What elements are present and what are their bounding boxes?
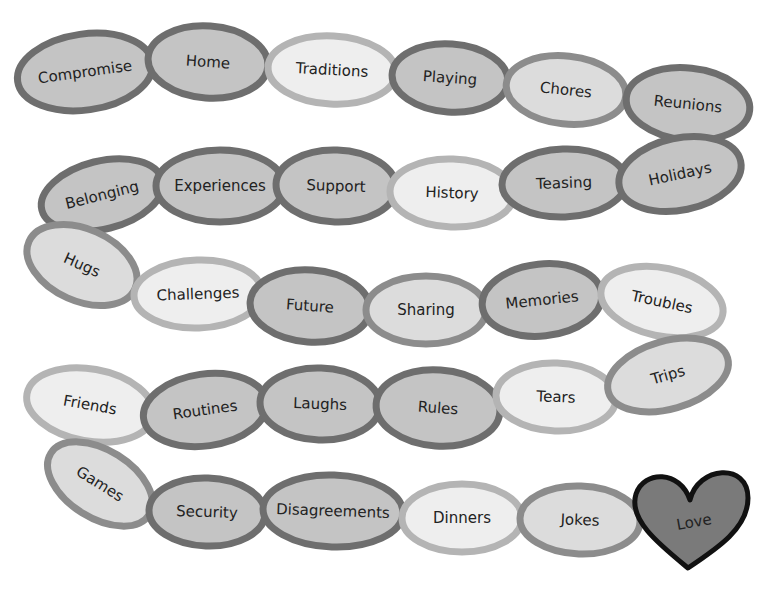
chain-link-chores: Chores: [503, 50, 629, 130]
chain-link-traditions: Traditions: [266, 33, 397, 108]
chain-link-routines: Routines: [139, 366, 272, 455]
chain-link-history: History: [389, 157, 515, 229]
link-label: Laughs: [293, 394, 348, 414]
chain-links: CompromiseHomeTraditionsPlayingChoresReu…: [12, 22, 753, 556]
chain-link-jokes: Jokes: [519, 484, 641, 556]
chain-link-holidays: Holidays: [612, 126, 748, 222]
link-label: Challenges: [156, 284, 240, 305]
heart-love: Love: [635, 473, 748, 568]
link-label: History: [425, 183, 479, 203]
chain-link-disagreements: Disagreements: [262, 473, 404, 550]
link-label: Home: [185, 51, 230, 72]
chain-link-trips: Trips: [599, 325, 737, 425]
link-label: Experiences: [174, 177, 266, 195]
chain-link-sharing: Sharing: [366, 276, 486, 344]
chain-link-compromise: Compromise: [12, 25, 157, 119]
link-label: Playing: [422, 67, 478, 89]
link-label: Rules: [417, 398, 459, 419]
chain-link-security: Security: [148, 476, 266, 548]
link-label: Support: [306, 176, 366, 196]
link-label: Jokes: [559, 510, 600, 529]
link-label: Future: [286, 295, 335, 316]
chain-link-memories: Memories: [479, 258, 606, 342]
chain-link-support: Support: [275, 148, 397, 224]
chain-link-experiences: Experiences: [156, 150, 284, 222]
chain-link-home: Home: [146, 22, 271, 102]
chain-link-troubles: Troubles: [594, 256, 729, 348]
link-label: Tears: [535, 387, 576, 406]
link-label: Dinners: [433, 509, 491, 527]
chain-link-future: Future: [248, 266, 373, 346]
chain-link-laughs: Laughs: [259, 366, 381, 442]
chain-link-dinners: Dinners: [402, 484, 522, 552]
link-label: Security: [176, 502, 238, 522]
chain-link-tears: Tears: [495, 361, 617, 433]
chain-link-playing: Playing: [390, 40, 510, 116]
chain-link-challenges: Challenges: [133, 258, 263, 330]
link-label: Sharing: [397, 301, 455, 319]
link-label: Traditions: [294, 59, 369, 81]
chain-link-friends: Friends: [21, 358, 160, 451]
chain-link-teasing: Teasing: [501, 147, 627, 219]
chain-link-rules: Rules: [374, 366, 503, 450]
paper-chain-diagram: CompromiseHomeTraditionsPlayingChoresReu…: [0, 0, 778, 595]
chain-link-hugs: Hugs: [14, 209, 149, 322]
link-label: Teasing: [535, 173, 593, 193]
